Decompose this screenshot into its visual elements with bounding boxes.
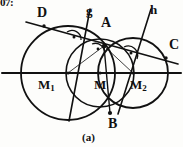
point-dot-d: [42, 24, 45, 27]
figure-caption: (a): [82, 132, 95, 143]
line-h: [118, 9, 151, 114]
geometry-figure: 07:: [0, 0, 183, 147]
center-label-m1: M1: [38, 78, 55, 93]
point-label-b: B: [108, 117, 117, 131]
point-label-c: C: [169, 38, 179, 52]
line-label-g: g: [86, 4, 93, 17]
point-dot-m: [98, 71, 101, 74]
point-dot-b: [108, 111, 112, 115]
center-label-m1-sub: 1: [50, 83, 55, 93]
line-label-h: h: [150, 3, 157, 16]
point-dot-m2: [131, 71, 134, 74]
center-label-m1-base: M: [38, 77, 50, 92]
center-label-m2-base: M: [130, 77, 142, 92]
point-dot-c: [164, 56, 167, 59]
point-label-d: D: [37, 6, 47, 20]
point-dot-a: [102, 44, 106, 48]
center-label-m: M: [94, 78, 106, 91]
figure-canvas: [0, 0, 183, 147]
point-dot-m1: [66, 71, 69, 74]
center-label-m2: M2: [130, 78, 147, 93]
center-label-m2-sub: 2: [142, 83, 147, 93]
point-label-a: A: [101, 16, 111, 30]
